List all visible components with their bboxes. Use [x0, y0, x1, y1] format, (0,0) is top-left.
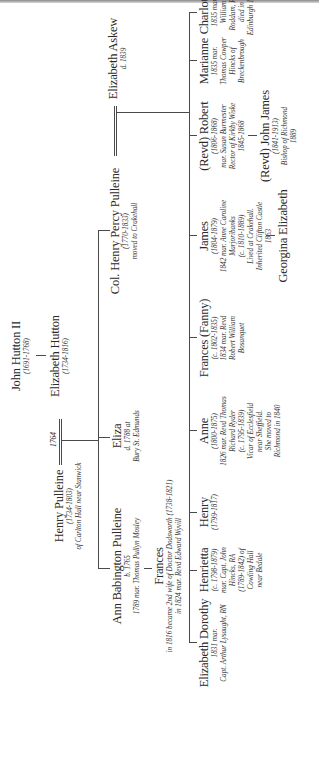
person-name: Marianne — [197, 31, 211, 91]
person-revd-robert: (Revd) Robert (1806-1868) mar. Susan Bur… — [197, 91, 247, 181]
person-note: Vicar of Ecclesfield — [247, 389, 256, 473]
line-to-child-0 — [189, 642, 197, 643]
person-dates: (1841-1913) — [272, 79, 281, 193]
person-note: in 1816 became 2nd wife of Doctor Dodswo… — [166, 461, 175, 671]
person-note: 1826 mar. Revd Thomas — [220, 389, 229, 473]
person-note: moved to Crakehall — [131, 151, 140, 311]
person-name: Henry — [197, 488, 211, 536]
person-note: 1889 — [290, 79, 299, 193]
person-name: James — [197, 188, 211, 284]
marriage-line-col-henry-askew — [114, 106, 117, 156]
person-note: Lived at Crakehall. — [247, 188, 256, 284]
line-robert-to-john-james — [248, 135, 257, 136]
person-note: (1800-1875) — [211, 389, 220, 473]
person-note: 1842 mar. Anne Caroline — [220, 188, 229, 284]
family-tree-diagram: John Hutton II (1691-1768) Elizabeth Hut… — [0, 0, 319, 761]
person-dates: (1734-1816) — [62, 291, 71, 421]
person-dates: (1770-1833) — [122, 151, 131, 311]
line-children-bar-gen3 — [189, 13, 190, 643]
person-name: Georgina Elizabeth — [276, 176, 290, 296]
person-henry-pulleine: Henry Pulleine (1734-1803) of Carlton Ha… — [52, 446, 84, 566]
person-revd-john-james: (Revd) John James (1841-1913) Bishop of … — [258, 79, 299, 193]
person-note: She moved to — [265, 389, 274, 473]
line-to-child-7 — [189, 60, 197, 61]
marriage-line-henry-elizabeth — [59, 419, 62, 465]
line-john-to-elizabeth — [36, 355, 46, 356]
person-name: Elizabeth Hutton — [48, 291, 62, 421]
person-dates: d. 1839 — [120, 11, 129, 106]
person-col-henry-percy-pulleine: Col. Henry Percy Pulleine (1770-1833) mo… — [108, 151, 140, 311]
person-name: Charlotte — [197, 0, 211, 39]
person-note: (1804-1879) — [211, 188, 220, 284]
line-to-child-8 — [189, 12, 197, 13]
person-note: Robert William — [229, 293, 238, 383]
person-note: near Sheffield. — [256, 389, 265, 473]
person-note: Roddam, RN — [229, 0, 238, 39]
person-name: Anne — [197, 389, 211, 473]
person-note: (c. 1810-1889) — [238, 188, 247, 284]
person-note: died in — [238, 0, 247, 39]
person-note: Hincks of — [229, 31, 238, 91]
person-note: mar. Susan Burmester — [220, 91, 229, 181]
person-dates: (1734-1803) — [66, 446, 75, 566]
person-note: (c. 1795-1839) — [238, 389, 247, 473]
person-name: Henrietta — [197, 539, 211, 601]
person-note: 1835 mar. — [211, 31, 220, 91]
person-elizabeth-dorothy: Elizabeth Dorothy 1831 mar. Capt. Arthur… — [197, 593, 229, 693]
person-marianne: Marianne 1835 mar. Thomas Cowper Hincks … — [197, 31, 247, 91]
person-note: Capt. Arthur Lysaught, RN — [220, 593, 229, 693]
person-ann-babington-pulleine: Ann Babington Pulleine b. 1765 1789 mar.… — [110, 486, 142, 646]
person-note: mar. Capt. John — [220, 539, 229, 601]
person-note: 1835 mar. — [211, 0, 220, 39]
person-note: Marjoribanks — [229, 188, 238, 284]
line-to-child-1 — [189, 570, 197, 571]
line-marriage2-down — [117, 112, 189, 113]
person-elizabeth-hutton: Elizabeth Hutton (1734-1816) — [48, 291, 71, 421]
person-note: Edinburgh 1837 — [247, 0, 256, 39]
line-to-eliza — [98, 437, 110, 438]
person-note: Rector of Kirkby Wiske — [229, 91, 238, 181]
person-name: Eliza — [110, 401, 124, 471]
person-frances-fanny: Frances (Fanny) (c. 1802-1835) 1834 mar.… — [197, 293, 247, 383]
person-note: Richard Ryder — [229, 389, 238, 473]
person-note: Cowling Hall — [247, 539, 256, 601]
person-note: (c. 1802-1835) — [211, 293, 220, 383]
person-note: Breckenbrough — [238, 31, 247, 91]
line-to-child-3 — [189, 430, 197, 431]
person-henrietta: Henrietta (c. 1798-1879) mar. Capt. John… — [197, 539, 265, 601]
person-name: John Hutton II — [9, 301, 23, 411]
person-name: (Revd) John James — [258, 79, 272, 193]
person-note: (1789-1842) of — [238, 539, 247, 601]
person-note: 1845-1868 — [238, 91, 247, 181]
person-note: in 1824 mar. Revd Edward Wyvill — [175, 461, 184, 671]
person-james: James (1804-1879) 1842 mar. Anne Carolin… — [197, 188, 274, 284]
person-frances-elder: Frances in 1816 became 2nd wife of Docto… — [152, 461, 184, 671]
person-name: (Revd) Robert — [197, 91, 211, 181]
person-name: Elizabeth Dorothy — [197, 593, 211, 693]
line-to-child-5 — [189, 235, 197, 236]
person-dates: b. 1765 — [124, 486, 133, 646]
person-note: Bosanquet — [238, 293, 247, 383]
person-note: (1806-1868) — [211, 91, 220, 181]
person-note: Inherited Clifton Castle — [256, 188, 265, 284]
person-name: Elizabeth Askew — [106, 11, 120, 106]
person-note: 1863 — [265, 188, 274, 284]
person-dates: (1691-1768) — [23, 301, 32, 411]
line-to-child-2 — [189, 512, 197, 513]
person-note: near Bedale — [256, 539, 265, 601]
person-note: 1834 mar. Revd — [220, 293, 229, 383]
person-note: (1799-1817) — [211, 488, 220, 536]
person-name: Frances (Fanny) — [197, 293, 211, 383]
marriage-year: 1764 — [49, 432, 58, 447]
person-eliza: Eliza d. 1788 at Bury St. Edmunds — [110, 401, 142, 471]
person-anne: Anne (1800-1875) 1826 mar. Revd Thomas R… — [197, 389, 283, 473]
line-children-bar-gen2 — [98, 230, 99, 569]
line-ann-to-frances — [144, 568, 152, 569]
person-note: 1831 mar. — [211, 593, 220, 693]
person-georgina-elizabeth: Georgina Elizabeth — [276, 176, 290, 296]
person-henry: Henry (1799-1817) — [197, 488, 220, 536]
person-charlotte: Charlotte 1835 mar. William Roddam, RN d… — [197, 0, 256, 39]
person-note: William — [220, 0, 229, 39]
person-note: Hincks, RA — [229, 539, 238, 601]
person-note: Richmond in 1840 — [274, 389, 283, 473]
